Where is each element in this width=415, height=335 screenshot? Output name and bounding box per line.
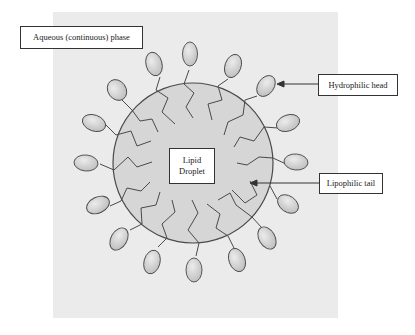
head-11	[141, 248, 163, 275]
lipophilic-tail-label: Lipophilic tail	[319, 173, 383, 194]
head-9	[225, 246, 248, 274]
head-1	[143, 50, 165, 77]
head-12	[106, 225, 132, 254]
head-6	[283, 153, 308, 171]
head-2	[183, 42, 198, 66]
hydrophilic-head-pointer	[277, 81, 318, 87]
droplet-line-1: Lipid	[183, 155, 201, 166]
droplet-line-2: Droplet	[179, 166, 205, 177]
head-5	[274, 111, 302, 134]
head-15	[80, 111, 108, 134]
lipophilic-tail-text: Lipophilic tail	[327, 178, 375, 189]
head-8	[254, 224, 280, 253]
hydrophilic-head-label: Hydrophilic head	[318, 74, 398, 96]
aqueous-phase-label: Aqueous (continuous) phase	[20, 26, 143, 49]
head-14	[73, 154, 98, 172]
aqueous-phase-text: Aqueous (continuous) phase	[33, 32, 130, 43]
head-7	[274, 191, 302, 217]
head-10	[186, 258, 202, 282]
lipid-droplet-label: Lipid Droplet	[169, 148, 215, 184]
head-13	[84, 193, 113, 218]
hydrophilic-head-text: Hydrophilic head	[328, 80, 387, 91]
head-16	[103, 76, 130, 104]
head-3	[221, 52, 244, 80]
